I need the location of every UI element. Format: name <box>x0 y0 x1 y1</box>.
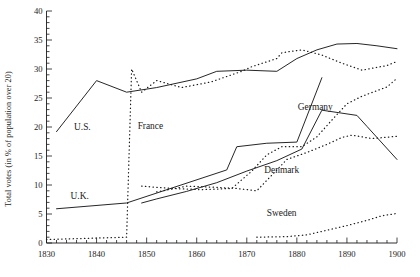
series-line-france <box>47 50 398 240</box>
x-axis-tick-label: 1840 <box>88 249 105 259</box>
x-axis-tick-label: 1890 <box>338 249 355 259</box>
series-line-u-k- <box>57 78 322 209</box>
chart-container: Total votes (in % of population over 20)… <box>0 0 420 277</box>
series-line-u-s- <box>57 43 397 131</box>
series-line-denmark-dotted-upper <box>157 135 397 192</box>
series-label-denmark: Denmark <box>264 165 299 175</box>
y-axis-tick-label: 0 <box>38 238 42 248</box>
series-label-germany: Germany <box>298 102 333 112</box>
y-axis-tick-label: 30 <box>34 64 43 74</box>
series-label-france: France <box>138 121 164 131</box>
x-axis-tick-label: 1870 <box>238 249 255 259</box>
x-axis-tick-label: 1860 <box>188 249 205 259</box>
y-axis-tick-label: 20 <box>34 122 43 132</box>
x-axis-tick-label: 1830 <box>38 249 55 259</box>
y-axis-tick-label: 5 <box>38 209 42 219</box>
y-axis-tick-label: 15 <box>34 151 43 161</box>
x-axis-tick-label: 1850 <box>138 249 155 259</box>
series-label-u-s-: U.S. <box>74 122 91 132</box>
series-label-sweden: Sweden <box>267 208 297 218</box>
y-axis-tick-label: 40 <box>34 6 43 16</box>
y-axis-tick-label: 10 <box>34 180 43 190</box>
x-axis-tick-label: 1900 <box>388 249 405 259</box>
y-axis-tick-label: 25 <box>34 93 43 103</box>
y-axis-tick-label: 35 <box>34 35 43 45</box>
line-chart-plot: 0510152025303540183018401850186018701880… <box>0 0 420 277</box>
series-label-u-k-: U.K. <box>71 191 89 201</box>
x-axis-tick-label: 1880 <box>288 249 305 259</box>
